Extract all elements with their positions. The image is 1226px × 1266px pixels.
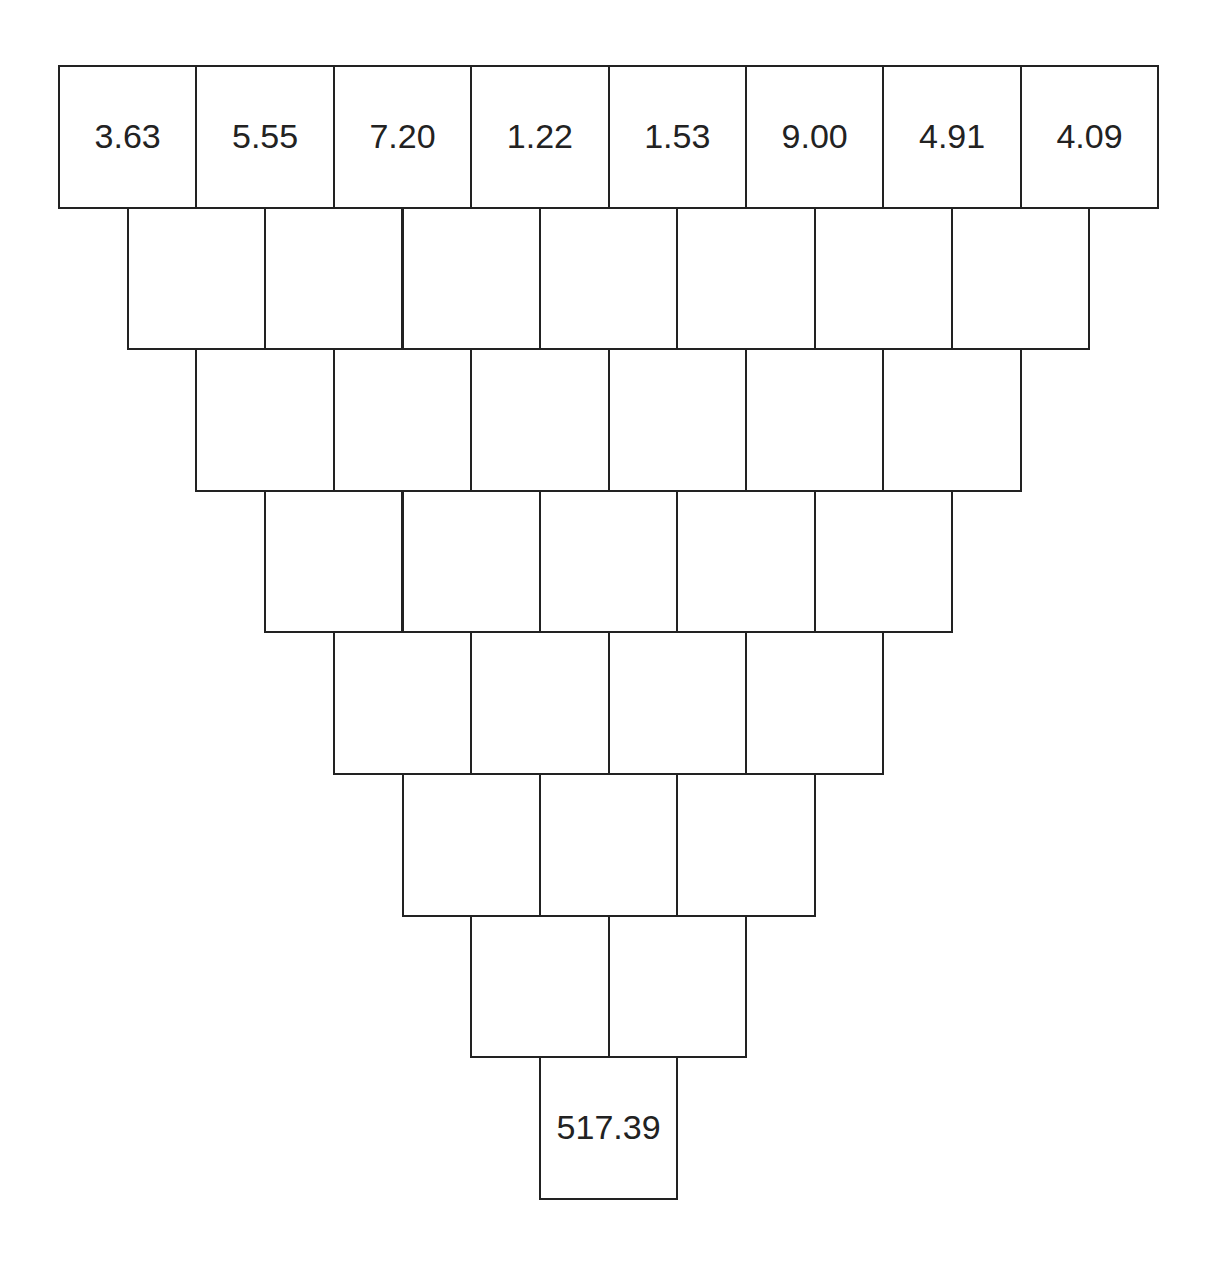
pyramid-cell: 5.55 bbox=[195, 65, 334, 209]
pyramid-cell bbox=[745, 348, 884, 492]
pyramid-cell bbox=[470, 915, 609, 1059]
pyramid-cell bbox=[539, 207, 678, 351]
pyramid-cell bbox=[951, 207, 1090, 351]
pyramid-cell bbox=[402, 490, 541, 634]
pyramid-cell: 9.00 bbox=[745, 65, 884, 209]
pyramid-cell bbox=[127, 207, 266, 351]
pyramid-cell bbox=[402, 773, 541, 917]
pyramid-cell bbox=[539, 490, 678, 634]
pyramid-cell bbox=[333, 631, 472, 775]
pyramid-cell bbox=[882, 348, 1021, 492]
pyramid-cell: 3.63 bbox=[58, 65, 197, 209]
pyramid-cell bbox=[608, 915, 747, 1059]
pyramid-cell: 7.20 bbox=[333, 65, 472, 209]
pyramid-cell bbox=[814, 490, 953, 634]
pyramid-cell bbox=[333, 348, 472, 492]
pyramid-cell bbox=[676, 207, 815, 351]
pyramid-cell bbox=[814, 207, 953, 351]
pyramid-cell bbox=[608, 348, 747, 492]
pyramid-cell: 1.53 bbox=[608, 65, 747, 209]
pyramid-cell: 4.91 bbox=[882, 65, 1021, 209]
pyramid-cell bbox=[745, 631, 884, 775]
pyramid-cell: 1.22 bbox=[470, 65, 609, 209]
pyramid-cell bbox=[470, 631, 609, 775]
pyramid-cell bbox=[402, 207, 541, 351]
pyramid-cell: 4.09 bbox=[1020, 65, 1159, 209]
pyramid-cell bbox=[195, 348, 334, 492]
pyramid-cell bbox=[264, 490, 403, 634]
pyramid-cell bbox=[676, 490, 815, 634]
pyramid-cell: 517.39 bbox=[539, 1056, 678, 1200]
pyramid-cell bbox=[470, 348, 609, 492]
pyramid-cell bbox=[676, 773, 815, 917]
pyramid-cell bbox=[539, 773, 678, 917]
pyramid-cell bbox=[264, 207, 403, 351]
pyramid-cell bbox=[608, 631, 747, 775]
